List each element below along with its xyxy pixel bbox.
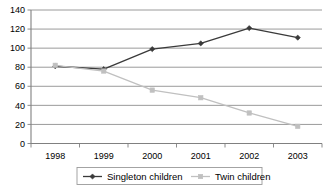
legend-marker-square [198, 174, 202, 178]
y-axis-tick-label: 100 [10, 43, 25, 53]
data-point-marker [150, 88, 154, 92]
x-axis-tick-label: 1999 [94, 151, 114, 161]
y-axis-tick-label: 40 [15, 101, 25, 111]
x-axis-tick-label: 1998 [45, 151, 65, 161]
legend-label-1: Singleton children [107, 171, 183, 182]
x-axis-tick-label: 2000 [142, 151, 162, 161]
data-point-marker [199, 96, 203, 100]
y-axis-tick-label: 140 [10, 5, 25, 15]
legend-label-2: Twin children [215, 171, 270, 182]
y-axis-tick-label: 60 [15, 81, 25, 91]
chart-container: 020406080100120140 199819992000200120022… [0, 0, 331, 190]
x-axis-tick-label: 2002 [239, 151, 259, 161]
data-point-marker [247, 111, 251, 115]
chart-background [0, 0, 331, 190]
data-point-marker [102, 69, 106, 73]
y-axis-tick-label: 120 [10, 24, 25, 34]
chart-legend: Singleton childrenTwin children [77, 168, 270, 185]
y-axis-tick-label: 20 [15, 120, 25, 130]
y-axis-tick-label: 80 [15, 62, 25, 72]
data-point-marker [296, 124, 300, 128]
line-chart: 020406080100120140 199819992000200120022… [0, 0, 331, 190]
x-axis-tick-label: 2003 [288, 151, 308, 161]
x-axis-tick-label: 2001 [191, 151, 211, 161]
data-point-marker [53, 63, 57, 67]
y-axis-tick-label: 0 [20, 139, 25, 149]
